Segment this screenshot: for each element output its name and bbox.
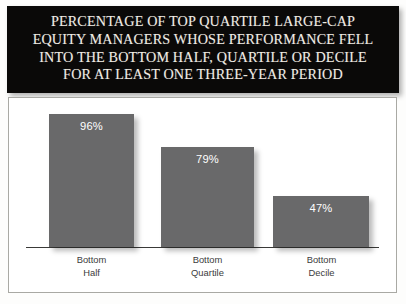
chart-title-banner: PERCENTAGE OF TOP QUARTILE LARGE-CAP EQU… bbox=[7, 6, 399, 93]
bar: 79% bbox=[161, 147, 254, 247]
category-label: BottomDecile bbox=[272, 254, 371, 279]
title-line-4: FOR AT LEAST ONE THREE-YEAR PERIOD bbox=[63, 66, 343, 84]
title-line-1: PERCENTAGE OF TOP QUARTILE LARGE-CAP bbox=[51, 13, 355, 31]
category-label: BottomQuartile bbox=[158, 254, 257, 279]
chart-plot-frame: 96%BottomHalf79%BottomQuartile47%BottomD… bbox=[8, 97, 397, 293]
category-label-line-2: Quartile bbox=[158, 267, 257, 280]
bar-value-label: 79% bbox=[161, 153, 254, 165]
bar: 47% bbox=[273, 196, 369, 247]
bar-value-label: 96% bbox=[49, 120, 134, 132]
chart-plot-area: 96%BottomHalf79%BottomQuartile47%BottomD… bbox=[9, 98, 396, 292]
category-label-line-2: Decile bbox=[272, 267, 371, 280]
title-line-3: INTO THE BOTTOM HALF, QUARTILE OR DECILE bbox=[39, 49, 367, 67]
category-label-line-2: Half bbox=[42, 267, 141, 280]
x-axis-line bbox=[26, 247, 379, 248]
category-label: BottomHalf bbox=[42, 254, 141, 279]
title-line-2: EQUITY MANAGERS WHOSE PERFORMANCE FELL bbox=[33, 31, 374, 49]
category-label-line-1: Bottom bbox=[158, 254, 257, 267]
bar-value-label: 47% bbox=[273, 202, 369, 214]
category-label-line-1: Bottom bbox=[272, 254, 371, 267]
chart-page: PERCENTAGE OF TOP QUARTILE LARGE-CAP EQU… bbox=[0, 0, 406, 304]
category-label-line-1: Bottom bbox=[42, 254, 141, 267]
bar: 96% bbox=[49, 114, 134, 247]
